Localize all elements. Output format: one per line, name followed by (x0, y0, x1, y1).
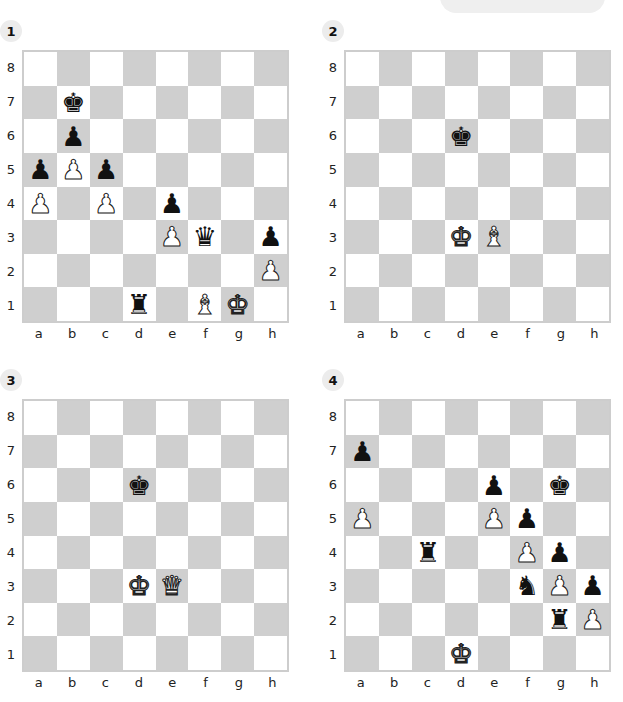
square-e8 (156, 401, 189, 435)
square-d1 (123, 636, 156, 670)
square-f5: ♟ (510, 502, 543, 536)
chess-board: ♚♚♛ (22, 399, 289, 672)
square-a2 (24, 603, 57, 637)
file-label: c (411, 326, 444, 342)
square-c6 (90, 119, 123, 153)
square-h1 (254, 636, 287, 670)
white-queen-icon: ♛ (160, 572, 184, 599)
file-label: f (189, 326, 222, 342)
square-d8 (445, 401, 478, 435)
file-label: b (377, 326, 410, 342)
square-h1 (576, 287, 609, 321)
square-b6 (379, 119, 412, 153)
square-e4 (478, 536, 511, 570)
square-a7 (346, 86, 379, 120)
black-pawn-icon: ♟ (258, 223, 282, 250)
square-b7 (379, 435, 412, 469)
file-label: d (444, 326, 477, 342)
rank-label: 2 (327, 255, 339, 289)
square-h8 (576, 52, 609, 86)
square-f5 (188, 153, 221, 187)
white-pawn-icon: ♟ (350, 505, 374, 532)
file-label: g (544, 326, 577, 342)
white-bishop-icon: ♝ (193, 291, 217, 318)
square-h3 (576, 220, 609, 254)
square-h3 (254, 569, 287, 603)
square-c5 (412, 502, 445, 536)
square-g1 (543, 636, 576, 670)
square-c7 (90, 86, 123, 120)
square-c5: ♟ (90, 153, 123, 187)
square-e7 (478, 435, 511, 469)
square-b7: ♚ (57, 86, 90, 120)
square-e8 (478, 52, 511, 86)
square-d5 (123, 502, 156, 536)
diagram-number-badge: 4 (322, 369, 344, 391)
square-c1 (90, 636, 123, 670)
square-f5 (510, 153, 543, 187)
square-a1 (346, 287, 379, 321)
page-tab-decoration (440, 0, 605, 13)
square-c3 (90, 220, 123, 254)
square-f6 (188, 468, 221, 502)
square-d6 (445, 468, 478, 502)
diagram-number-badge: 3 (0, 369, 22, 391)
square-f8 (188, 401, 221, 435)
white-pawn-icon: ♟ (28, 190, 52, 217)
white-pawn-icon: ♟ (94, 190, 118, 217)
file-label: a (344, 675, 377, 691)
file-label: b (55, 326, 88, 342)
square-g5 (221, 502, 254, 536)
square-g1: ♚ (221, 287, 254, 321)
square-g8 (543, 401, 576, 435)
file-labels: abcdefgh (22, 326, 289, 342)
rank-label: 8 (327, 50, 339, 84)
square-b3 (379, 220, 412, 254)
square-d4 (123, 536, 156, 570)
file-label: a (22, 675, 55, 691)
square-g3: ♟ (543, 569, 576, 603)
square-c5 (412, 153, 445, 187)
rank-label: 2 (5, 604, 17, 638)
square-h2 (576, 254, 609, 288)
rank-label: 6 (327, 467, 339, 501)
file-label: e (478, 326, 511, 342)
square-e5 (478, 153, 511, 187)
square-f1: ♝ (188, 287, 221, 321)
square-c4: ♟ (90, 187, 123, 221)
rank-label: 4 (5, 536, 17, 570)
square-d2 (123, 603, 156, 637)
square-b1 (57, 636, 90, 670)
square-b8 (379, 52, 412, 86)
white-pawn-icon: ♟ (548, 572, 572, 599)
file-label: h (256, 675, 289, 691)
rank-label: 1 (5, 289, 17, 323)
rank-label: 3 (5, 221, 17, 255)
square-f4 (188, 536, 221, 570)
square-h4 (254, 536, 287, 570)
square-e8 (156, 52, 189, 86)
rank-label: 7 (5, 84, 17, 118)
square-f3: ♛ (188, 220, 221, 254)
square-g4 (221, 187, 254, 221)
square-b8 (57, 401, 90, 435)
square-b7 (57, 435, 90, 469)
file-labels: abcdefgh (344, 326, 611, 342)
square-f7 (510, 86, 543, 120)
square-g1 (221, 636, 254, 670)
square-a6 (346, 468, 379, 502)
square-e5 (156, 502, 189, 536)
rank-label: 8 (5, 399, 17, 433)
rank-labels: 87654321 (5, 50, 17, 323)
square-e2 (156, 603, 189, 637)
square-a5 (24, 502, 57, 536)
square-c8 (90, 52, 123, 86)
square-c5 (90, 502, 123, 536)
square-d2 (445, 254, 478, 288)
file-label: e (478, 675, 511, 691)
square-d6: ♚ (445, 119, 478, 153)
square-e4 (156, 536, 189, 570)
square-e5: ♟ (478, 502, 511, 536)
square-d6 (123, 119, 156, 153)
square-h4 (576, 187, 609, 221)
